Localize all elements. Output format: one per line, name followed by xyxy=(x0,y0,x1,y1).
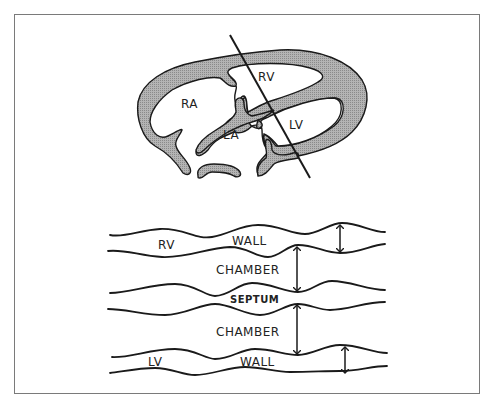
label-la: LA xyxy=(223,128,239,142)
m-mode-diagram: RV WALL CHAMBER SEPTUM CHAMBER LV WALL xyxy=(108,223,387,375)
label-septum: SEPTUM xyxy=(230,294,279,305)
figure-canvas: RA RV LA LV RV WALL CHAMBER SEPTUM CHAMB… xyxy=(0,0,492,404)
label-lv-chamber: CHAMBER xyxy=(216,325,280,339)
atrial-floor-fragment xyxy=(198,164,241,178)
label-ra: RA xyxy=(181,97,198,111)
label-lv: LV xyxy=(289,118,304,132)
label-lv-wall-lv: LV xyxy=(148,355,163,369)
label-rv-wall: WALL xyxy=(232,234,267,248)
label-lv-wall: WALL xyxy=(240,355,275,369)
label-rv-chamber: CHAMBER xyxy=(216,263,280,277)
label-rv-wall-rv: RV xyxy=(158,238,175,252)
heart-diagram: RA RV LA LV xyxy=(138,35,367,178)
label-rv: RV xyxy=(258,70,275,84)
